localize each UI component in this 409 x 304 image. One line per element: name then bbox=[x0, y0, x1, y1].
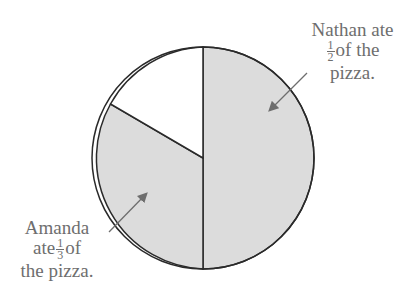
nathan-label-line3: pizza. bbox=[300, 63, 405, 83]
amanda-label-line3: the pizza. bbox=[8, 261, 106, 281]
slice-nathan bbox=[203, 47, 314, 269]
nathan-label-line1: Nathan ate bbox=[300, 20, 405, 40]
amanda-fraction: 13 bbox=[56, 238, 64, 261]
nathan-fraction: 12 bbox=[327, 40, 335, 63]
nathan-label-line2: 12of the bbox=[300, 40, 405, 63]
amanda-label-line2: ate13of bbox=[8, 238, 106, 261]
nathan-label: Nathan ate 12of the pizza. bbox=[300, 20, 405, 83]
amanda-label: Amanda ate13of the pizza. bbox=[8, 218, 106, 281]
amanda-label-line1: Amanda bbox=[8, 218, 106, 238]
